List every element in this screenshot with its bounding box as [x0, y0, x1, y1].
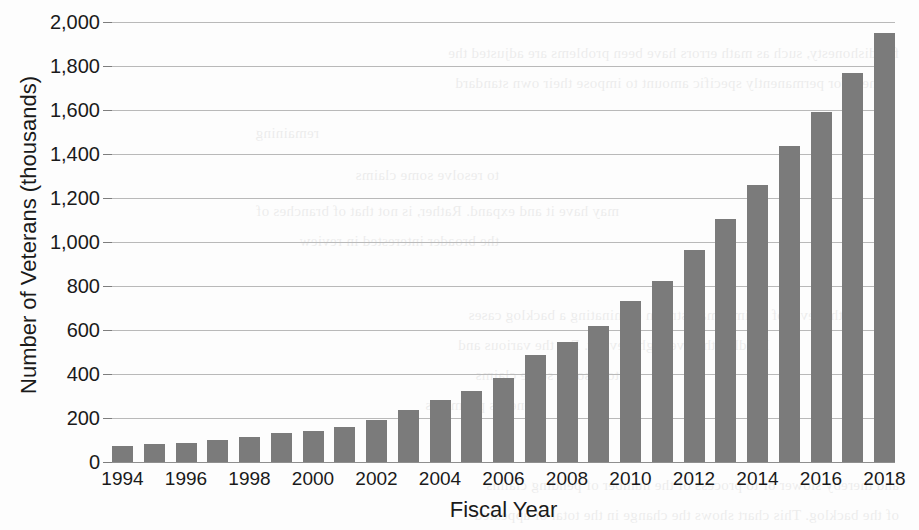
bar: [747, 185, 768, 462]
bar: [207, 440, 228, 462]
x-axis-labels: 1994199619982000200220042006200820102012…: [112, 468, 895, 498]
y-axis-tick-label: 1,600: [50, 99, 100, 122]
x-axis-tick-label: 2008: [546, 468, 588, 490]
y-axis-tick-label: 1,800: [50, 55, 100, 78]
x-axis-tick-label: 1994: [101, 468, 143, 490]
bar: [493, 378, 514, 462]
bar: [684, 250, 705, 462]
y-axis-tick-label: 1,200: [50, 187, 100, 210]
plot-area: [112, 22, 895, 462]
bar: [398, 410, 419, 462]
y-axis-tick-label: 800: [67, 275, 100, 298]
bar: [811, 112, 832, 462]
bar: [874, 33, 895, 462]
y-axis-tick-mark: [103, 66, 112, 67]
bar: [303, 431, 324, 462]
bar: [430, 400, 451, 462]
y-axis-tick-mark: [103, 418, 112, 419]
y-axis-tick-mark: [103, 462, 112, 463]
y-axis-tick-label: 1,000: [50, 231, 100, 254]
y-axis-labels: 02004006008001,0001,2001,4001,6001,8002,…: [0, 0, 100, 530]
x-axis-tick-label: 2018: [863, 468, 905, 490]
bar: [779, 146, 800, 462]
y-axis-tick-label: 0: [89, 451, 100, 474]
bar: [461, 391, 482, 463]
x-axis-tick-label: 1996: [165, 468, 207, 490]
x-axis-tick-label: 2014: [736, 468, 778, 490]
bar-chart: Number of Veterans (thousands) 020040060…: [0, 0, 919, 530]
y-axis-tick-mark: [103, 22, 112, 23]
x-axis-title: Fiscal Year: [112, 497, 895, 523]
bar: [176, 443, 197, 462]
y-axis-tick-label: 200: [67, 407, 100, 430]
bar-series: [112, 22, 895, 462]
bar: [144, 444, 165, 462]
y-axis-tick-mark: [103, 242, 112, 243]
x-axis-tick-label: 1998: [228, 468, 270, 490]
y-axis-tick-label: 1,400: [50, 143, 100, 166]
bar: [271, 433, 292, 462]
bar: [620, 301, 641, 462]
y-axis-tick-mark: [103, 110, 112, 111]
y-axis-tick-mark: [103, 154, 112, 155]
bar: [525, 355, 546, 462]
y-axis-tick-mark: [103, 198, 112, 199]
bar: [334, 427, 355, 462]
y-axis-tick-label: 600: [67, 319, 100, 342]
bar: [715, 219, 736, 462]
x-axis-tick-label: 2012: [673, 468, 715, 490]
bar: [652, 281, 673, 463]
bar: [366, 420, 387, 462]
x-axis-tick-label: 2016: [800, 468, 842, 490]
y-axis-tick-mark: [103, 374, 112, 375]
x-axis-tick-label: 2000: [292, 468, 334, 490]
y-axis-tick-mark: [103, 286, 112, 287]
x-axis-tick-label: 2002: [355, 468, 397, 490]
axis-baseline: [112, 462, 895, 463]
x-axis-tick-label: 2004: [419, 468, 461, 490]
y-axis-tick-mark: [103, 330, 112, 331]
x-axis-tick-label: 2006: [482, 468, 524, 490]
y-axis-tick-label: 400: [67, 363, 100, 386]
y-axis-tick-label: 2,000: [50, 11, 100, 34]
bar: [557, 342, 578, 462]
bar: [588, 326, 609, 462]
x-axis-tick-label: 2010: [609, 468, 651, 490]
bar: [842, 73, 863, 462]
bar: [112, 446, 133, 463]
bar: [239, 437, 260, 462]
